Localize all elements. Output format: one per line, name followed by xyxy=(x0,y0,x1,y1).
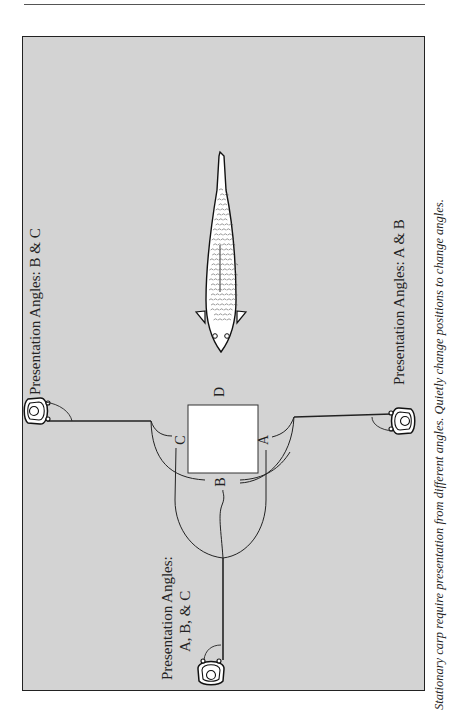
right-eye xyxy=(225,334,230,339)
angler-icon-right xyxy=(389,408,415,434)
line-to-b-wiggle xyxy=(220,490,224,558)
left-eye xyxy=(213,334,218,339)
label-b: B xyxy=(213,477,228,486)
bottom-angler-label-line2: A, B, & C xyxy=(177,591,193,652)
angler-icon-bottom xyxy=(198,659,224,685)
right-hand xyxy=(389,411,393,415)
carp-body xyxy=(206,152,236,352)
label-d: D xyxy=(212,387,227,397)
right-angler-lines xyxy=(240,414,392,483)
right-hand xyxy=(46,417,50,421)
label-c: C xyxy=(173,435,188,444)
line-to-a xyxy=(272,417,294,437)
right-pectoral-fin xyxy=(237,311,246,323)
angler-head xyxy=(401,417,410,426)
bottom-angler-label-line1: Presentation Angles: xyxy=(159,556,175,680)
target-square xyxy=(188,405,258,473)
label-a: A xyxy=(256,434,271,445)
diagram-canvas: D C A B Presentation Angles: B & C Prese… xyxy=(0,0,455,719)
left-pectoral-fin xyxy=(196,311,205,323)
carp-icon xyxy=(196,152,246,352)
right-angler-label: Presentation Angles: A & B xyxy=(391,219,407,385)
line-to-c xyxy=(151,421,172,436)
bottom-angler-second-rod xyxy=(204,645,221,660)
angler-head xyxy=(207,671,216,680)
top-angler-label: Presentation Angles: B & C xyxy=(27,228,43,395)
right-hand xyxy=(217,659,221,663)
figure-caption: Stationary carp require presentation fro… xyxy=(432,199,446,710)
right-angler-rod-line xyxy=(294,414,392,417)
angler-head xyxy=(30,407,39,416)
